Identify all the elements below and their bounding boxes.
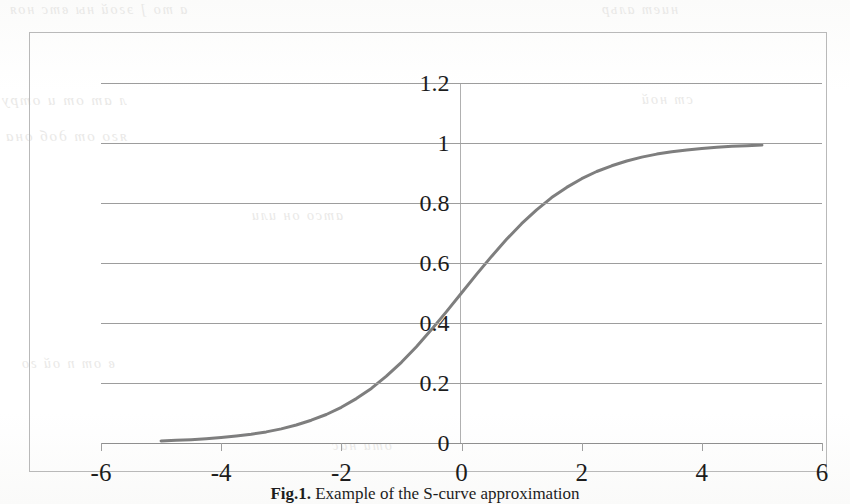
x-axis-tick-0 [462,443,463,451]
gridline-y-1 [101,143,822,144]
x-axis-label-0: 0 [455,459,468,487]
y-axis-label-1: 1 [438,130,450,157]
figure-caption-prefix: Fig.1. [270,484,311,503]
y-axis-label-0_6: 0.6 [420,250,450,277]
bleed-through-text: ниет альр [600,2,678,18]
y-axis-label-0_8: 0.8 [420,190,450,217]
chart-frame: 00.20.40.60.811.2-6-4-20246 [29,32,827,472]
gridline-y-1_2 [101,83,822,84]
y-axis-label-0_2: 0.2 [420,370,450,397]
gridline-y-0_4 [101,323,822,324]
x-axis-label-4: 4 [696,459,709,487]
x-axis-tick-neg4 [221,443,222,451]
y-axis-label-0: 0 [438,430,450,457]
gridline-y-0_8 [101,203,822,204]
x-axis-tick-4 [702,443,703,451]
y-axis-label-1_2: 1.2 [420,70,450,97]
figure-caption: Fig.1. Example of the S-curve approximat… [0,484,850,504]
scanned-page: а то ] эгой ны втс ноя л ат от и отру яг… [0,0,850,504]
gridline-y-0_2 [101,383,822,384]
x-axis-label-neg4: -4 [211,459,232,487]
s-curve-series [101,83,822,473]
y-axis-label-0_4: 0.4 [420,310,450,337]
x-axis-tick-neg6 [101,443,102,451]
x-axis-label-2: 2 [575,459,588,487]
x-axis-tick-6 [822,443,823,451]
x-axis-tick-neg2 [341,443,342,451]
x-axis-label-6: 6 [816,459,829,487]
plot-area: 00.20.40.60.811.2-6-4-20246 [101,83,822,473]
gridline-y-0_6 [101,263,822,264]
figure-caption-text: Example of the S-curve approximation [315,484,579,503]
x-axis-label-neg6: -6 [91,459,112,487]
x-axis-tick-2 [582,443,583,451]
bleed-through-text: а то ] эгой ны втс ноя [8,2,187,18]
x-axis-label-neg2: -2 [331,459,352,487]
